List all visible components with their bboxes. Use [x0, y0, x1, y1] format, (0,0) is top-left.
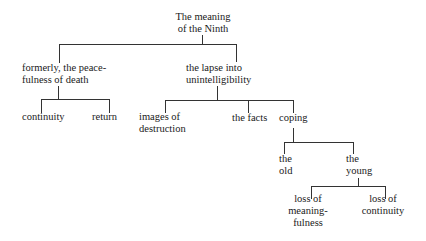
node-lapse: the lapse into unintelligibility: [186, 62, 251, 86]
node-text: destruction: [139, 123, 186, 135]
node-continuity: continuity: [22, 111, 65, 123]
node-text: coping: [279, 112, 308, 124]
node-text: formerly, the peace-: [22, 62, 106, 74]
node-formerly: formerly, the peace- fulness of death: [22, 62, 106, 86]
node-return: return: [92, 111, 117, 123]
node-text: loss of: [286, 193, 330, 205]
node-text: fulness of death: [22, 74, 106, 86]
node-loss-meaning: loss of meaning- fulness: [286, 193, 330, 229]
node-facts: the facts: [232, 112, 267, 124]
node-text: the: [346, 153, 372, 165]
node-text: unintelligibility: [186, 74, 251, 86]
node-text: the: [279, 153, 292, 165]
node-text: meaning-: [286, 205, 330, 217]
node-text: return: [92, 111, 117, 123]
node-text: loss of: [359, 193, 407, 205]
node-young: the young: [346, 153, 372, 177]
node-root: The meaning of the Ninth: [172, 11, 234, 35]
node-text: images of: [139, 111, 186, 123]
node-images: images of destruction: [139, 111, 186, 135]
tree-diagram: The meaning of the Ninth formerly, the p…: [0, 0, 426, 241]
node-text: continuity: [22, 111, 65, 123]
node-text: young: [346, 165, 372, 177]
node-text: continuity: [359, 205, 407, 217]
node-loss-continuity: loss of continuity: [359, 193, 407, 217]
node-text: of the Ninth: [172, 23, 234, 35]
node-coping: coping: [279, 112, 308, 124]
node-text: the lapse into: [186, 62, 251, 74]
node-text: fulness: [286, 217, 330, 229]
node-text: The meaning: [172, 11, 234, 23]
node-text: the facts: [232, 112, 267, 124]
node-old: the old: [279, 153, 292, 177]
node-text: old: [279, 165, 292, 177]
